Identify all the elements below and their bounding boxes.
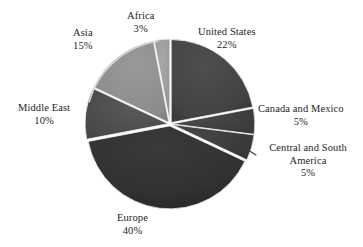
pie-label-asia: Asia 15% [73,27,93,52]
pie-label-central-and-south-america-value: 5% [255,167,361,180]
pie-label-canada-and-mexico: Canada and Mexico 5% [258,103,344,128]
pie-label-central-and-south-america-name: Central and South America [255,142,361,167]
pie-label-middle-east-value: 10% [18,115,70,128]
pie-label-africa-name: Africa [127,10,154,23]
pie-label-africa: Africa 3% [127,10,154,35]
pie-label-canada-and-mexico-value: 5% [258,116,344,129]
pie-label-middle-east-name: Middle East [18,102,70,115]
pie-label-middle-east: Middle East 10% [18,102,70,127]
pie-label-asia-value: 15% [73,40,93,53]
pie-slices-group [85,39,255,209]
pie-label-united-states-name: United States [198,26,256,39]
pie-label-europe-name: Europe [117,212,148,225]
pie-label-europe-value: 40% [117,225,148,238]
pie-label-central-and-south-america: Central and South America 5% [255,142,361,180]
pie-label-united-states: United States 22% [198,26,256,51]
pie-label-europe: Europe 40% [117,212,148,237]
pie-label-asia-name: Asia [73,27,93,40]
pie-label-canada-and-mexico-name: Canada and Mexico [258,103,344,116]
pie-chart: United States 22% Canada and Mexico 5% C… [0,0,363,247]
pie-slice-united-states [171,40,253,123]
pie-label-united-states-value: 22% [198,39,256,52]
pie-label-africa-value: 3% [127,23,154,36]
